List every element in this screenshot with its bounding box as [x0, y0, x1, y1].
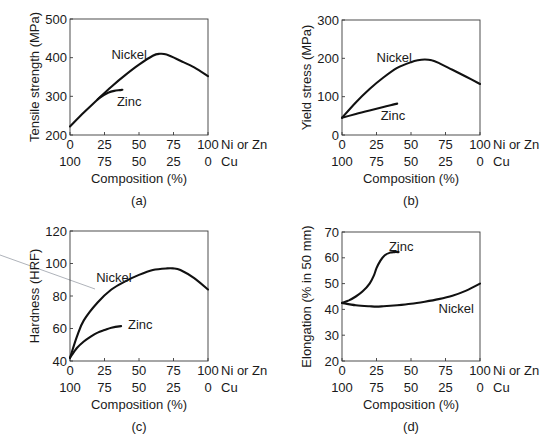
panel-label: (a) — [131, 193, 147, 208]
y-tick-label: 40 — [325, 302, 339, 317]
x-tick-label-secondary: 50 — [132, 154, 146, 169]
x-tick-label-primary: 0 — [66, 363, 73, 378]
y-tick-label: 400 — [45, 50, 67, 65]
series-line-nickel — [70, 54, 208, 127]
x-tick-label-secondary: 100 — [331, 380, 353, 395]
series-label-nickel: Nickel — [377, 50, 413, 65]
x-tick-label-primary: 0 — [338, 363, 345, 378]
x-axis-title: Composition (%) — [91, 171, 187, 186]
x-primary-element-label: Ni or Zn — [221, 137, 267, 152]
y-tick-label: 60 — [325, 250, 339, 265]
panel-label: (c) — [131, 419, 146, 434]
x-tick-label-secondary: 100 — [59, 154, 81, 169]
x-primary-element-label: Ni or Zn — [493, 363, 539, 378]
y-tick-label: 40 — [53, 354, 67, 369]
x-tick-label-primary: 100 — [469, 137, 491, 152]
x-tick-label-secondary: 50 — [132, 380, 146, 395]
series-label-zinc: Zinc — [389, 239, 414, 254]
series-label-zinc: Zinc — [117, 94, 142, 109]
x-tick-label-secondary: 50 — [404, 380, 418, 395]
series-line-nickel — [70, 268, 208, 358]
x-primary-element-label: Ni or Zn — [493, 137, 539, 152]
series-line-zinc — [342, 252, 399, 303]
x-tick-label-primary: 25 — [97, 363, 111, 378]
x-tick-label-primary: 100 — [197, 137, 219, 152]
plot-frame — [70, 231, 208, 361]
x-tick-label-primary: 75 — [438, 137, 452, 152]
y-axis-title: Tensile strength (MPa) — [27, 12, 42, 142]
x-tick-label-secondary: 75 — [369, 154, 383, 169]
plot-frame — [70, 19, 208, 135]
panel-label: (b) — [403, 193, 419, 208]
x-tick-label-secondary: 100 — [59, 380, 81, 395]
x-tick-label-secondary: 25 — [166, 380, 180, 395]
x-tick-label-primary: 75 — [438, 363, 452, 378]
x-primary-element-label: Ni or Zn — [221, 363, 267, 378]
y-tick-label: 30 — [325, 328, 339, 343]
x-tick-label-primary: 75 — [166, 363, 180, 378]
panel-label: (d) — [403, 419, 419, 434]
plot-frame — [342, 20, 480, 135]
x-tick-label-primary: 0 — [338, 137, 345, 152]
x-tick-label-secondary: 100 — [331, 154, 353, 169]
x-tick-label-primary: 25 — [369, 363, 383, 378]
x-tick-label-secondary: 0 — [204, 380, 211, 395]
y-tick-label: 70 — [325, 225, 339, 240]
x-secondary-element-label: Cu — [493, 380, 510, 395]
x-tick-label-primary: 50 — [404, 363, 418, 378]
y-tick-label: 200 — [45, 128, 67, 143]
x-tick-label-primary: 50 — [132, 363, 146, 378]
figure: 20030040050001002575505075251000Ni or Zn… — [0, 0, 547, 447]
x-tick-label-primary: 0 — [66, 137, 73, 152]
x-tick-label-secondary: 75 — [97, 154, 111, 169]
x-tick-label-secondary: 75 — [97, 380, 111, 395]
x-tick-label-primary: 100 — [197, 363, 219, 378]
x-tick-label-primary: 100 — [469, 363, 491, 378]
x-tick-label-primary: 50 — [404, 137, 418, 152]
x-tick-label-secondary: 25 — [438, 380, 452, 395]
x-axis-title: Composition (%) — [363, 171, 459, 186]
x-tick-label-secondary: 0 — [204, 154, 211, 169]
x-tick-label-secondary: 25 — [166, 154, 180, 169]
x-tick-label-secondary: 25 — [438, 154, 452, 169]
y-tick-label: 50 — [325, 276, 339, 291]
chart-panel-c: 40608010012001002575505075251000Ni or Zn… — [27, 224, 267, 435]
x-tick-label-primary: 75 — [166, 137, 180, 152]
y-tick-label: 120 — [45, 224, 67, 239]
chart-panel-a: 20030040050001002575505075251000Ni or Zn… — [27, 12, 267, 209]
x-secondary-element-label: Cu — [221, 154, 238, 169]
series-line-nickel — [342, 60, 480, 118]
y-tick-label: 300 — [45, 89, 67, 104]
chart-panel-b: 010020030001002575505075251000Ni or ZnCu… — [299, 13, 539, 209]
y-tick-label: 300 — [317, 13, 339, 28]
x-tick-label-primary: 25 — [97, 137, 111, 152]
x-tick-label-primary: 50 — [132, 137, 146, 152]
y-tick-label: 200 — [317, 51, 339, 66]
x-axis-title: Composition (%) — [363, 397, 459, 412]
x-tick-label-secondary: 0 — [476, 380, 483, 395]
y-axis-title: Hardness (HRF) — [27, 249, 42, 344]
series-label-nickel: Nickel — [439, 301, 475, 316]
series-label-nickel: Nickel — [96, 270, 132, 285]
x-tick-label-secondary: 75 — [369, 380, 383, 395]
x-secondary-element-label: Cu — [221, 380, 238, 395]
x-axis-title: Composition (%) — [91, 397, 187, 412]
series-line-zinc — [70, 326, 121, 358]
series-label-zinc: Zinc — [381, 108, 406, 123]
y-tick-label: 60 — [53, 321, 67, 336]
y-tick-label: 80 — [53, 289, 67, 304]
series-label-zinc: Zinc — [128, 317, 153, 332]
y-axis-title: Elongation (% in 50 mm) — [299, 225, 314, 367]
y-tick-label: 20 — [325, 354, 339, 369]
chart-panel-d: 20304050607001002575505075251000Ni or Zn… — [299, 225, 539, 435]
y-axis-title: Yield stress (MPa) — [299, 25, 314, 131]
x-secondary-element-label: Cu — [493, 154, 510, 169]
y-tick-label: 100 — [45, 256, 67, 271]
x-tick-label-secondary: 0 — [476, 154, 483, 169]
x-tick-label-secondary: 50 — [404, 154, 418, 169]
y-tick-label: 100 — [317, 89, 339, 104]
x-tick-label-primary: 25 — [369, 137, 383, 152]
y-tick-label: 500 — [45, 12, 67, 27]
series-label-nickel: Nickel — [111, 47, 147, 62]
